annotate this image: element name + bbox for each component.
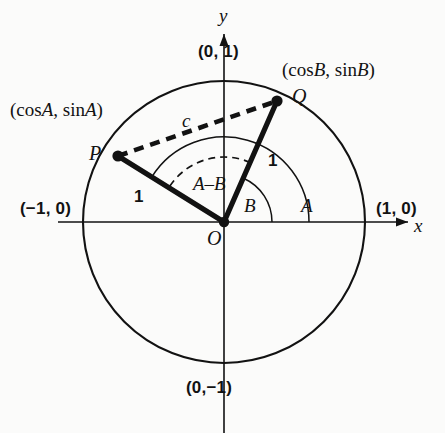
segment-pq-chord [118, 101, 277, 156]
angle-b-label: B [244, 196, 256, 215]
point-q-marker [271, 95, 282, 106]
point-q-coordinates-label: (cosB, sinB) [282, 60, 375, 79]
angle-a-minus-b-label: A–B [193, 174, 226, 193]
unit-circle-figure: y x (0, 1) (0,−1) (−1, 0) (1, 0) (cosA, … [0, 0, 445, 433]
op-length-label: 1 [134, 188, 143, 205]
chord-length-label: c [182, 111, 190, 130]
point-p-coordinates-label: (cosA, sinA) [10, 100, 103, 119]
angle-a-label: A [301, 196, 313, 215]
coordinate-label-left: (−1, 0) [20, 200, 71, 217]
y-axis-label: y [219, 6, 227, 25]
point-o-label: O [207, 228, 221, 248]
oq-length-label: 1 [268, 152, 277, 169]
q-coords-text: (cosB, sinB) [282, 59, 375, 80]
x-axis-arrowhead [396, 218, 408, 227]
point-p-marker [112, 150, 123, 161]
coordinate-label-right: (1, 0) [376, 200, 417, 217]
point-o-marker [219, 217, 229, 227]
point-q-label: Q [292, 86, 306, 106]
x-axis [58, 218, 408, 227]
coordinate-label-top: (0, 1) [198, 43, 239, 60]
coordinate-label-bottom: (0,−1) [186, 379, 232, 396]
p-coords-text: (cosA, sinA) [10, 99, 103, 120]
point-p-label: P [89, 143, 101, 163]
x-axis-label: x [414, 216, 422, 235]
